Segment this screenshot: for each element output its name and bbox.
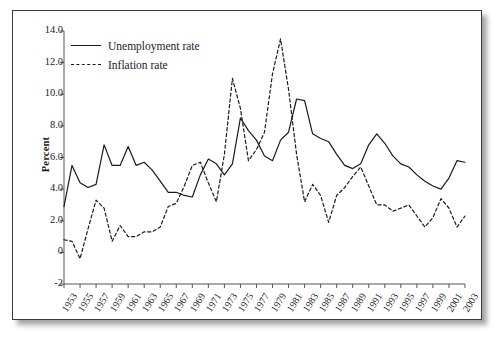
legend-item-inflation-rate: Inflation rate	[71, 55, 271, 74]
legend-item-unemployment-rate: Unemployment rate	[71, 36, 271, 55]
chart-area: Percent -202.04.06.08.010.012.014.0 1953…	[13, 11, 483, 321]
legend-item-label: Inflation rate	[108, 59, 168, 71]
figure-frame: Percent -202.04.06.08.010.012.014.0 1953…	[12, 10, 482, 320]
legend-item-label: Unemployment rate	[108, 40, 200, 52]
chart-legend: Unemployment rateInflation rate	[71, 36, 271, 74]
dashed-line-icon	[71, 60, 101, 70]
solid-line-icon	[71, 41, 101, 51]
